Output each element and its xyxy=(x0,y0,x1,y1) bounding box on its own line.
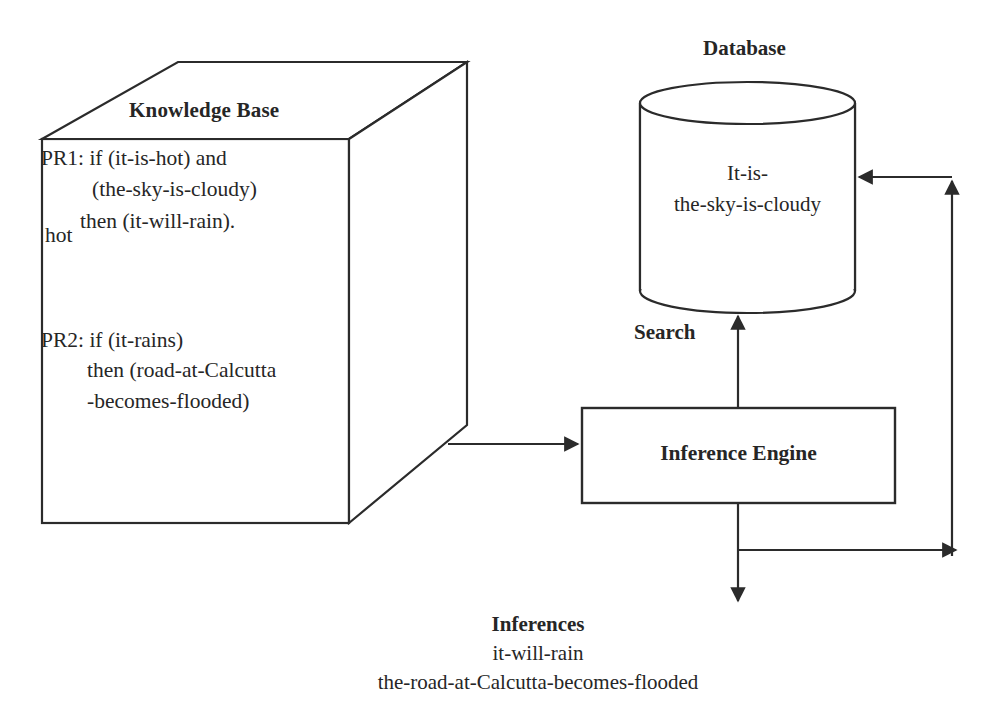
search-edge-label: Search xyxy=(634,322,695,343)
knowledge-base-rule2-line1: PR2: if (it-rains) xyxy=(41,330,183,352)
knowledge-base-rule2-line2: then (road-at-Calcutta xyxy=(87,360,276,382)
cube-right-face xyxy=(349,62,467,523)
inferences-item: it-will-rain xyxy=(493,643,584,664)
knowledge-base-rule1-line1: PR1: if (it-is-hot) and xyxy=(41,148,227,170)
inference-engine-label: Inference Engine xyxy=(582,443,895,465)
knowledge-base-cube xyxy=(42,62,467,523)
cylinder-top-ellipse xyxy=(640,82,855,124)
knowledge-base-rule1-line3: then (it-will-rain). xyxy=(80,211,235,233)
database-fact-line1: It-is- xyxy=(640,163,855,184)
knowledge-base-annotation-hot: hot xyxy=(45,225,72,247)
inferences-item: the-road-at-Calcutta-becomes-flooded xyxy=(378,672,699,693)
diagram-canvas: Knowledge Base PR1: if (it-is-hot) and (… xyxy=(0,0,1001,714)
inferences-title: Inferences xyxy=(492,614,585,635)
knowledge-base-rule1-line2: (the-sky-is-cloudy) xyxy=(92,179,257,201)
database-fact-line2: the-sky-is-cloudy xyxy=(640,194,855,215)
knowledge-base-title: Knowledge Base xyxy=(129,100,279,121)
database-title: Database xyxy=(703,38,786,59)
knowledge-base-rule2-line3: -becomes-flooded) xyxy=(87,391,249,413)
